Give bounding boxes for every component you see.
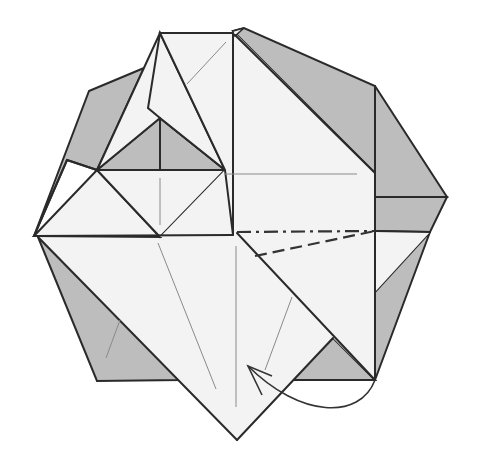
edge-horizontal-mid [34, 235, 233, 236]
origami-diagram [0, 0, 477, 473]
gray-strip-right [375, 197, 447, 232]
edge-horizontal-right [375, 231, 430, 232]
